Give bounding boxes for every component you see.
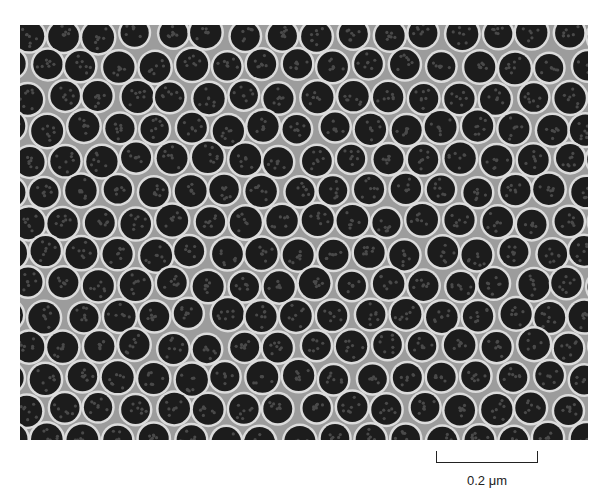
particle [302,331,331,360]
particle [50,393,79,422]
particle [554,334,583,363]
particle [373,330,402,359]
particle [319,176,348,205]
particle [47,208,77,238]
particle [317,301,347,331]
particle [66,237,98,269]
particle [302,204,334,236]
particle [321,112,350,141]
particle [354,237,385,268]
particle [140,52,171,83]
particle [373,268,404,299]
particle [121,395,150,424]
scale-bar [436,451,538,463]
particle [192,141,224,173]
particle [31,115,63,147]
particle [193,394,224,425]
particle [515,392,546,423]
particle [176,49,208,81]
particle [266,205,297,236]
particle-lattice [20,25,588,440]
particle [119,330,149,360]
particle [587,144,588,174]
scale-bar-label: 0.2 μm [436,473,538,488]
particle [138,363,169,394]
particle [425,111,457,143]
particle [518,145,549,176]
particle [286,177,315,206]
particle [518,329,549,360]
particle [587,272,588,301]
particle [535,54,563,82]
particle [120,209,151,240]
particle [499,363,527,391]
particle [120,269,152,301]
particle [212,298,244,330]
particle [338,81,368,111]
particle [212,239,243,270]
particle [102,361,134,393]
particle [86,146,117,177]
particle [372,209,400,237]
particle [371,395,401,425]
micrograph-image [20,25,588,440]
